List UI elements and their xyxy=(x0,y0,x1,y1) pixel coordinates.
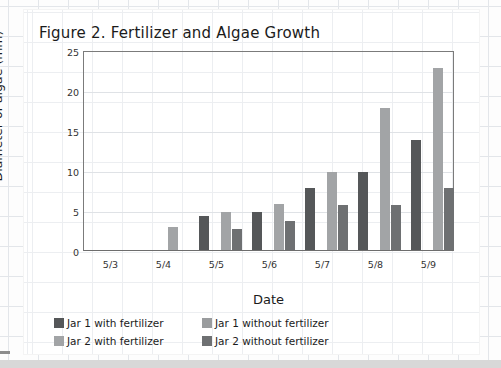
legend-label: Jar 1 without fertilizer xyxy=(215,317,329,329)
y-tick-label: 20 xyxy=(67,87,79,98)
bar[interactable] xyxy=(444,188,454,250)
legend-swatch xyxy=(54,336,64,346)
bar[interactable] xyxy=(338,205,348,250)
bar-group xyxy=(93,52,137,250)
legend-swatch xyxy=(202,318,212,328)
bar-group xyxy=(252,52,296,250)
x-tick-label: 5/7 xyxy=(315,259,330,270)
bar-group xyxy=(305,52,349,250)
y-tick-label: 5 xyxy=(73,207,79,218)
chart-legend: Jar 1 with fertilizerJar 1 without ferti… xyxy=(54,317,354,347)
x-tick-label: 5/9 xyxy=(421,259,436,270)
legend-item[interactable]: Jar 2 with fertilizer xyxy=(54,335,202,347)
y-tick-label: 25 xyxy=(67,47,79,58)
bar-group xyxy=(199,52,243,250)
figure-page: Figure 2. Fertilizer and Algae Growth Di… xyxy=(0,0,501,368)
x-tick-label: 5/4 xyxy=(156,259,171,270)
legend-label: Jar 2 with fertilizer xyxy=(67,335,163,347)
legend-swatch xyxy=(202,336,212,346)
legend-label: Jar 2 without fertilizer xyxy=(215,335,329,347)
bar[interactable] xyxy=(232,229,242,250)
x-axis-label: Date xyxy=(83,292,454,307)
x-tick-label: 5/3 xyxy=(103,259,118,270)
legend-item[interactable]: Jar 1 without fertilizer xyxy=(202,317,354,329)
x-tick-label: 5/5 xyxy=(209,259,224,270)
bar[interactable] xyxy=(168,227,178,250)
bar[interactable] xyxy=(199,216,209,250)
y-tick-label: 0 xyxy=(73,247,79,258)
bar-group xyxy=(146,52,190,250)
bar-group xyxy=(411,52,455,250)
bar[interactable] xyxy=(305,188,315,250)
bar[interactable] xyxy=(221,212,231,250)
y-axis-label: Diameter of algae (mm) xyxy=(0,6,6,206)
x-tick-label: 5/8 xyxy=(368,259,383,270)
bar[interactable] xyxy=(433,68,443,250)
bar[interactable] xyxy=(411,140,421,250)
x-tick-label: 5/6 xyxy=(262,259,277,270)
legend-label: Jar 1 with fertilizer xyxy=(67,317,163,329)
chart-title: Figure 2. Fertilizer and Algae Growth xyxy=(39,24,320,42)
legend-item[interactable]: Jar 2 without fertilizer xyxy=(202,335,354,347)
page-bottom-edge xyxy=(0,360,501,368)
bar[interactable] xyxy=(391,205,401,250)
legend-swatch xyxy=(54,318,64,328)
bar[interactable] xyxy=(380,108,390,250)
bar[interactable] xyxy=(274,204,284,250)
legend-item[interactable]: Jar 1 with fertilizer xyxy=(54,317,202,329)
y-tick-label: 10 xyxy=(67,167,79,178)
bar[interactable] xyxy=(285,221,295,250)
page-left-mark xyxy=(0,351,10,354)
figure-card: Figure 2. Fertilizer and Algae Growth Di… xyxy=(24,10,479,354)
bar-groups xyxy=(84,52,453,250)
bar[interactable] xyxy=(358,172,368,250)
bar[interactable] xyxy=(252,212,262,250)
y-tick-label: 15 xyxy=(67,127,79,138)
bar-group xyxy=(358,52,402,250)
plot-area: 0510152025 5/35/45/55/65/75/85/9 xyxy=(83,51,454,251)
bar[interactable] xyxy=(327,172,337,250)
